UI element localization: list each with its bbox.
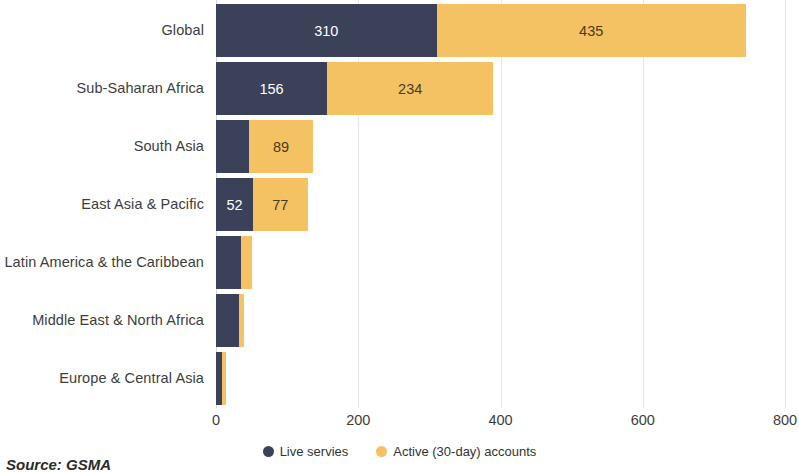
category-label: Middle East & North Africa bbox=[0, 312, 204, 328]
bar-value-label: 234 bbox=[327, 81, 493, 97]
bar-segment: 77 bbox=[253, 178, 308, 231]
x-tick-0: 0 bbox=[212, 412, 220, 428]
category-axis-labels: GlobalSub-Saharan AfricaSouth AsiaEast A… bbox=[0, 0, 210, 412]
bar-segment: 52 bbox=[216, 178, 253, 231]
legend-item: Active (30-day) accounts bbox=[376, 444, 536, 459]
category-label: Europe & Central Asia bbox=[0, 370, 204, 386]
gridline-600 bbox=[643, 0, 644, 408]
category-label: Sub-Saharan Africa bbox=[0, 80, 204, 96]
legend-label: Active (30-day) accounts bbox=[393, 444, 536, 459]
bar-segment: 156 bbox=[216, 62, 327, 115]
bar-value-label: 77 bbox=[253, 197, 308, 213]
bar-row: 5277 bbox=[216, 178, 308, 231]
bar-row bbox=[216, 294, 244, 347]
bar-segment: 234 bbox=[327, 62, 493, 115]
bar-row bbox=[216, 352, 226, 405]
x-tick-200: 200 bbox=[346, 412, 370, 428]
bar-segment bbox=[241, 236, 252, 289]
x-tick-800: 800 bbox=[773, 412, 797, 428]
bar-segment bbox=[222, 352, 226, 405]
bar-row: 89 bbox=[216, 120, 313, 173]
bar-segment bbox=[216, 236, 241, 289]
bar-row: 310435 bbox=[216, 4, 746, 57]
legend-label: Live servies bbox=[280, 444, 349, 459]
category-label: East Asia & Pacific bbox=[0, 196, 204, 212]
bar-row: 156234 bbox=[216, 62, 493, 115]
bar-segment bbox=[216, 294, 239, 347]
chart-page: GlobalSub-Saharan AfricaSouth AsiaEast A… bbox=[0, 0, 799, 472]
x-tick-600: 600 bbox=[631, 412, 655, 428]
category-label: South Asia bbox=[0, 138, 204, 154]
bar-row bbox=[216, 236, 252, 289]
bar-value-label: 52 bbox=[216, 197, 253, 213]
chart-legend: Live serviesActive (30-day) accounts bbox=[0, 444, 799, 468]
bar-segment: 435 bbox=[437, 4, 746, 57]
category-label: Latin America & the Caribbean bbox=[0, 254, 204, 270]
gridline-800 bbox=[785, 0, 786, 408]
x-tick-400: 400 bbox=[488, 412, 512, 428]
category-label: Global bbox=[0, 22, 204, 38]
legend-swatch-icon bbox=[263, 446, 274, 457]
bar-segment bbox=[216, 120, 249, 173]
chart-plot-area: GlobalSub-Saharan AfricaSouth AsiaEast A… bbox=[0, 0, 799, 412]
bar-segment: 89 bbox=[249, 120, 312, 173]
legend-swatch-icon bbox=[376, 446, 387, 457]
bar-value-label: 89 bbox=[249, 139, 312, 155]
gridline-400 bbox=[501, 0, 502, 408]
bar-value-label: 156 bbox=[216, 81, 327, 97]
bar-segment: 310 bbox=[216, 4, 437, 57]
value-axis-ticks: 0200400600800 bbox=[216, 412, 799, 436]
bar-value-label: 310 bbox=[216, 23, 437, 39]
bar-value-label: 435 bbox=[437, 23, 746, 39]
bar-segment bbox=[239, 294, 244, 347]
legend-item: Live servies bbox=[263, 444, 349, 459]
source-note: Source: GSMA bbox=[6, 456, 111, 472]
